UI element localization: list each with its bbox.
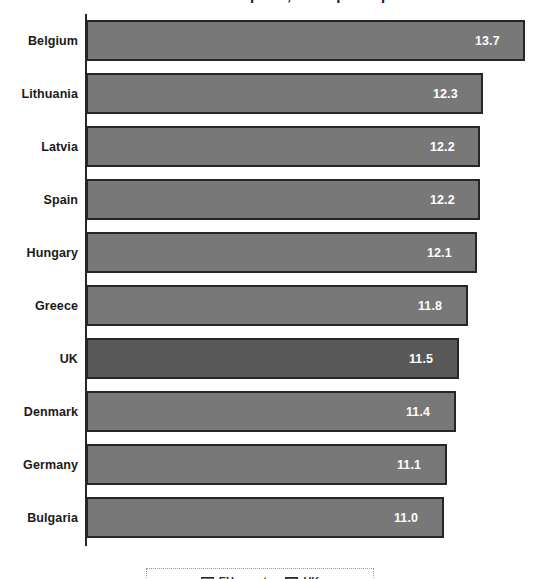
bar-value-label: 11.1	[397, 444, 421, 485]
category-label: Germany	[0, 438, 78, 491]
bar-greece[interactable]	[86, 285, 468, 326]
bar-row: Lithuania 12.3	[0, 67, 540, 120]
bar-row: Denmark 11.4	[0, 385, 540, 438]
bar-belgium[interactable]	[86, 20, 525, 61]
bar-row: Spain 12.2	[0, 173, 540, 226]
bar-value-label: 13.7	[475, 20, 500, 61]
bar-row: UK 11.5	[0, 332, 540, 385]
bar-value-label: 12.2	[430, 126, 455, 167]
category-label: Lithuania	[0, 67, 78, 120]
bar-uk[interactable]	[86, 338, 459, 379]
bar-value-label: 11.4	[406, 391, 430, 432]
bar-row: Greece 11.8	[0, 279, 540, 332]
bar-hungary[interactable]	[86, 232, 477, 273]
category-label: UK	[0, 332, 78, 385]
bar-latvia[interactable]	[86, 126, 480, 167]
bar-row: Bulgaria 11.0	[0, 491, 540, 544]
legend-item-eu[interactable]: EU country	[201, 575, 278, 579]
legend-label: UK	[303, 575, 319, 579]
plot-area: Belgium 13.7 Lithuania 12.3 Latvia 12.2 …	[0, 14, 540, 546]
chart-legend: EU country UK	[146, 568, 374, 579]
bar-row: Belgium 13.7	[0, 14, 540, 67]
bar-value-label: 11.0	[394, 497, 418, 538]
bar-value-label: 12.1	[427, 232, 452, 273]
bar-value-label: 11.5	[409, 338, 433, 379]
bar-row: Germany 11.1	[0, 438, 540, 491]
legend-item-uk[interactable]: UK	[285, 575, 319, 579]
category-label: Denmark	[0, 385, 78, 438]
bar-value-label: 12.2	[430, 179, 455, 220]
chart-title: Alcohol consumption, litres per capita	[0, 0, 540, 3]
bar-germany[interactable]	[86, 444, 447, 485]
category-label: Belgium	[0, 14, 78, 67]
bar-row: Hungary 12.1	[0, 226, 540, 279]
bar-chart: Alcohol consumption, litres per capita B…	[0, 0, 540, 579]
category-label: Spain	[0, 173, 78, 226]
category-label: Latvia	[0, 120, 78, 173]
bar-value-label: 11.8	[418, 285, 442, 326]
bar-spain[interactable]	[86, 179, 480, 220]
bar-bulgaria[interactable]	[86, 497, 444, 538]
category-label: Hungary	[0, 226, 78, 279]
category-label: Bulgaria	[0, 491, 78, 544]
category-label: Greece	[0, 279, 78, 332]
legend-label: EU country	[219, 575, 278, 579]
bar-denmark[interactable]	[86, 391, 456, 432]
bar-value-label: 12.3	[433, 73, 458, 114]
bar-lithuania[interactable]	[86, 73, 483, 114]
bar-row: Latvia 12.2	[0, 120, 540, 173]
